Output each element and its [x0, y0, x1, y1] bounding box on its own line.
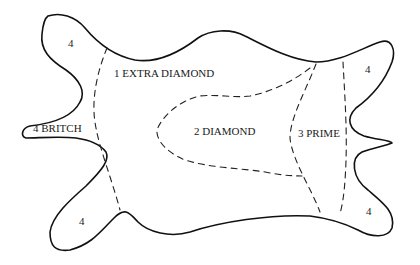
- label-top-right-leg: 4: [365, 63, 371, 75]
- hide-diagram: 1 EXTRA DIAMOND 2 DIAMOND 3 PRIME 4 BRIT…: [0, 0, 420, 265]
- label-prime: 3 PRIME: [298, 127, 340, 139]
- label-extra-diamond: 1 EXTRA DIAMOND: [114, 67, 214, 79]
- label-top-left-leg: 4: [68, 37, 74, 49]
- cut-line-diamond: [157, 68, 310, 176]
- cut-line-prime-right: [340, 62, 346, 214]
- label-bottom-right-leg: 4: [366, 205, 372, 217]
- label-diamond: 2 DIAMOND: [194, 125, 255, 137]
- label-britch: 4 BRITCH: [33, 122, 82, 134]
- label-bottom-left-leg: 4: [79, 215, 85, 227]
